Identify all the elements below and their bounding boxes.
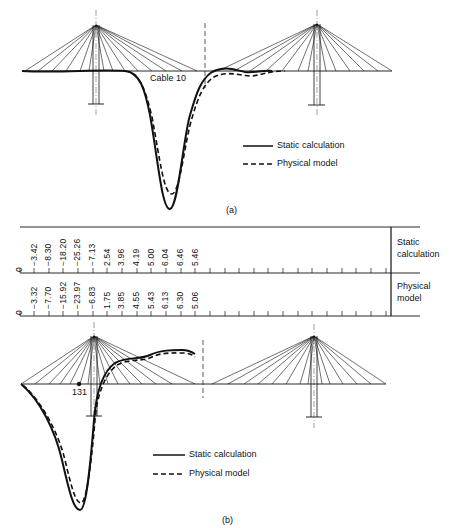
panel-b-legend-model: Physical model: [189, 468, 250, 478]
static-value: 3.96: [116, 249, 126, 266]
panel-a-legend-static: Static calculation: [277, 140, 345, 150]
static-value: −18.20: [58, 239, 68, 266]
static-value: −3.42: [29, 243, 39, 266]
model-value: 6.30: [175, 292, 185, 309]
static-value: 6.46: [175, 249, 185, 266]
static-value: 5.46: [190, 249, 200, 266]
panel-b-model-curve: [23, 353, 195, 503]
model-value: 3.85: [116, 292, 126, 309]
static-value: −8.30: [43, 243, 53, 266]
model-value: −6.83: [87, 286, 97, 309]
row-label-line2: calculation: [397, 248, 440, 260]
row-label-line1: Physical: [397, 280, 431, 292]
model-value: 4.55: [131, 292, 141, 309]
panel-b-legend-static: Static calculation: [189, 449, 257, 459]
static-value: 2.54: [102, 249, 112, 266]
panel-a-model-curve: [125, 71, 285, 194]
cable-10-label: Cable 10: [150, 73, 186, 83]
panel-a-legend-lines: [243, 146, 273, 164]
table-row-label-static: Static calculation: [397, 236, 440, 260]
panel-a-left-tower-cables: [25, 25, 197, 71]
panel-a-legend-model: Physical model: [277, 158, 338, 168]
point-131-label: 131: [72, 387, 87, 397]
panel-b-right-tower-cables: [212, 336, 386, 384]
model-value: −3.32: [29, 286, 39, 309]
panel-a-caption: (a): [226, 205, 237, 215]
model-value: 6.13: [160, 292, 170, 309]
panel-b-deck-and-towers: [21, 322, 386, 428]
model-value: 5.06: [190, 292, 200, 309]
row-label-line2: model: [397, 292, 431, 304]
model-value: −15.92: [58, 282, 68, 309]
model-value: 0: [14, 310, 24, 315]
model-value: −7.70: [43, 286, 53, 309]
static-value: −7.13: [87, 243, 97, 266]
panel-a-deck-and-towers: [22, 10, 392, 116]
model-value: −23.97: [72, 282, 82, 309]
table-row-label-model: Physical model: [397, 280, 431, 304]
static-value: −25.26: [72, 239, 82, 266]
panel-b-legend-lines: [153, 455, 185, 474]
panel-a-static-curve: [22, 68, 272, 209]
static-value: 4.19: [131, 249, 141, 266]
model-value: 1.75: [102, 292, 112, 309]
panel-b-left-tower-cables: [21, 336, 195, 384]
static-value: 0: [14, 267, 24, 272]
model-value: 5.43: [146, 292, 156, 309]
row-label-line1: Static: [397, 236, 440, 248]
panel-a-right-tower-cables: [218, 24, 392, 71]
panel-b-caption: (b): [222, 515, 233, 525]
static-value: 6.04: [160, 249, 170, 266]
static-value: 5.00: [146, 249, 156, 266]
